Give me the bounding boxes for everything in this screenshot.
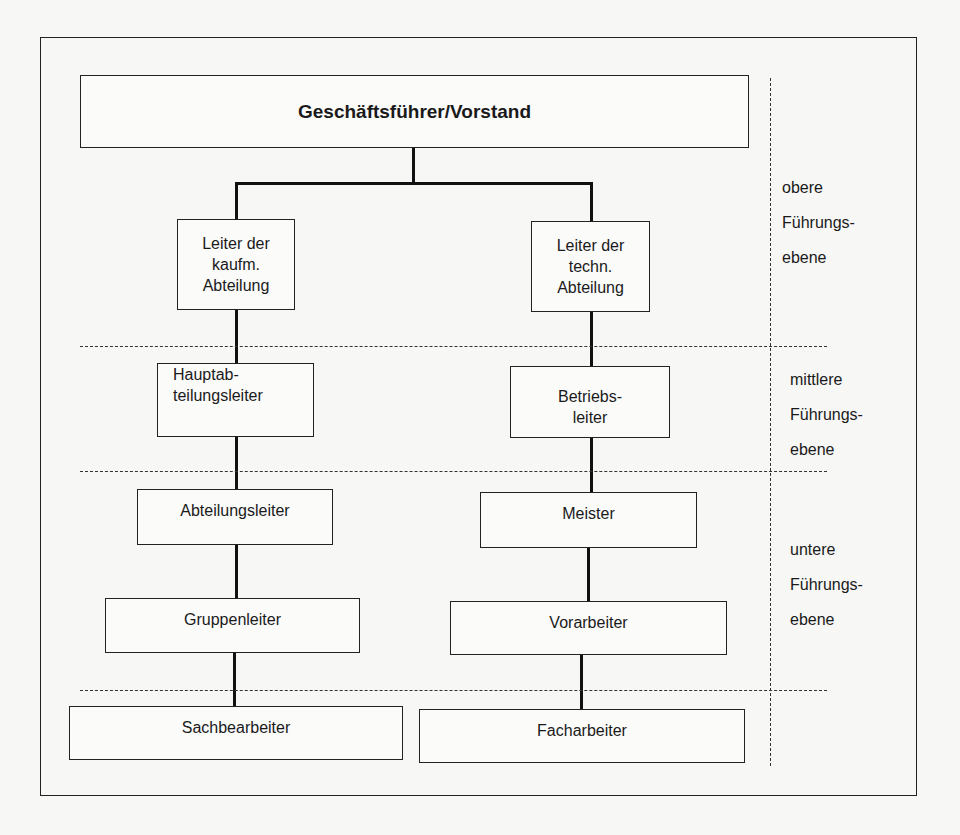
node-label: Geschäftsführer/Vorstand bbox=[298, 101, 531, 122]
node-leiter-techn: Leiter der techn. Abteilung bbox=[531, 221, 650, 312]
node-label: Sachbearbeiter bbox=[182, 717, 291, 738]
node-label: Vorarbeiter bbox=[549, 612, 627, 633]
node-label: Gruppenleiter bbox=[184, 609, 281, 630]
node-vorarbeiter: Vorarbeiter bbox=[450, 601, 727, 655]
level-label-line: mittlere bbox=[790, 362, 863, 397]
level-label-obere: obere Führungs- ebene bbox=[782, 170, 855, 275]
node-label: kaufm. bbox=[212, 254, 260, 275]
connector-top-branch bbox=[412, 182, 593, 185]
connector-left-3 bbox=[235, 437, 238, 490]
level-divider-vertical bbox=[770, 78, 771, 766]
connector-top-branch bbox=[235, 182, 415, 185]
node-label: Betriebs- bbox=[558, 386, 622, 407]
node-label: Meister bbox=[562, 503, 614, 524]
node-sachbearbeiter: Sachbearbeiter bbox=[69, 706, 403, 760]
node-meister: Meister bbox=[480, 492, 697, 548]
connector-top-trunk bbox=[412, 148, 415, 184]
node-hauptabteilungsleiter: Hauptab- teilungsleiter bbox=[157, 363, 314, 437]
connector-left-4 bbox=[235, 545, 238, 599]
node-gruppenleiter: Gruppenleiter bbox=[105, 598, 360, 653]
node-betriebsleiter: Betriebs- leiter bbox=[510, 366, 670, 438]
node-label: teilungsleiter bbox=[173, 385, 263, 406]
node-geschaeftsfuehrer: Geschäftsführer/Vorstand bbox=[80, 75, 749, 148]
connector-left-5 bbox=[233, 653, 236, 708]
level-divider-lower-staff bbox=[80, 690, 827, 691]
connector-right-4 bbox=[587, 548, 590, 602]
level-label-line: untere bbox=[790, 532, 863, 567]
level-label-line: Führungs- bbox=[782, 205, 855, 240]
node-label: Abteilungsleiter bbox=[180, 500, 289, 521]
connector-right-2 bbox=[590, 312, 593, 367]
node-label: Leiter der bbox=[557, 235, 625, 256]
node-label: Abteilung bbox=[557, 277, 624, 298]
level-label-line: ebene bbox=[790, 432, 863, 467]
node-abteilungsleiter: Abteilungsleiter bbox=[137, 489, 333, 545]
node-label: Abteilung bbox=[203, 275, 270, 296]
level-label-line: ebene bbox=[790, 602, 863, 637]
level-label-line: ebene bbox=[782, 240, 855, 275]
connector-left-2 bbox=[235, 310, 238, 364]
node-leiter-kaufm: Leiter der kaufm. Abteilung bbox=[177, 219, 295, 310]
node-label: Leiter der bbox=[202, 233, 270, 254]
level-divider-upper-middle bbox=[80, 346, 827, 347]
level-label-line: obere bbox=[782, 170, 855, 205]
node-label: techn. bbox=[569, 256, 613, 277]
connector-left-1 bbox=[235, 182, 238, 220]
node-label: leiter bbox=[573, 407, 608, 428]
connector-right-1 bbox=[590, 182, 593, 222]
node-label: Hauptab- bbox=[173, 364, 239, 385]
connector-right-5 bbox=[580, 655, 583, 709]
level-label-line: Führungs- bbox=[790, 397, 863, 432]
level-label-line: Führungs- bbox=[790, 567, 863, 602]
level-label-mittlere: mittlere Führungs- ebene bbox=[790, 362, 863, 467]
node-label: Facharbeiter bbox=[537, 720, 627, 741]
level-divider-middle-lower bbox=[80, 471, 827, 472]
node-facharbeiter: Facharbeiter bbox=[419, 709, 745, 763]
level-label-untere: untere Führungs- ebene bbox=[790, 532, 863, 637]
connector-right-3 bbox=[590, 438, 593, 493]
